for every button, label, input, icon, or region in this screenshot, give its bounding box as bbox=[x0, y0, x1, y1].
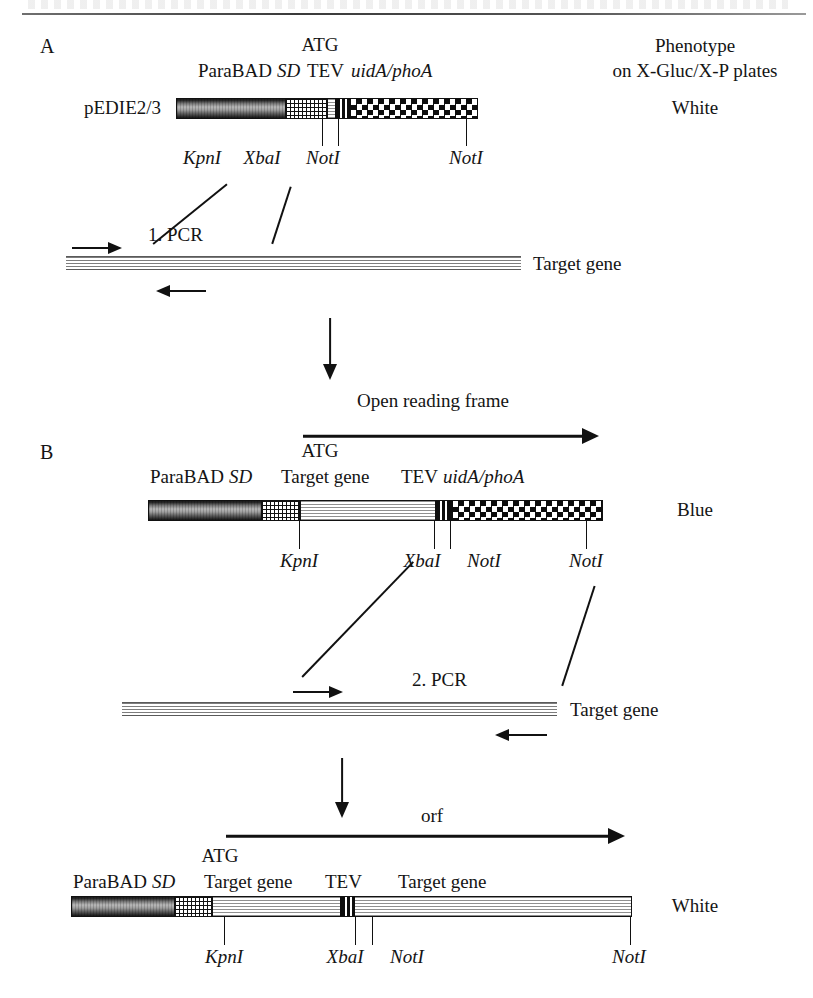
panel-a-promoter-arabad: araBAD bbox=[209, 60, 272, 81]
panel-b-sd-label: SD bbox=[229, 467, 252, 486]
panel-c-atg-label: ATG bbox=[202, 846, 239, 865]
site-label-xbai-c: XbaI bbox=[327, 947, 364, 966]
phenotype-value-c: White bbox=[672, 896, 718, 915]
segment-target-gene-1 bbox=[212, 897, 340, 916]
panel-c-promoter-label: ParaBAD bbox=[73, 872, 147, 891]
panel-a-tev-label: TEV bbox=[307, 61, 344, 80]
pcr1-forward-primer-arrow bbox=[72, 240, 122, 256]
segment-tev bbox=[435, 501, 452, 520]
pcr1-template-duplex bbox=[66, 256, 521, 270]
panel-a-atg-label: ATG bbox=[302, 35, 339, 54]
site-tick-noti-a bbox=[466, 119, 467, 146]
site-tick-noti-b bbox=[450, 521, 451, 549]
panel-c-promoter-arabad: araBAD bbox=[84, 871, 147, 892]
panel-b-label: B bbox=[40, 442, 53, 462]
header-text-remnant bbox=[28, 0, 788, 9]
segment-promoter bbox=[72, 897, 174, 916]
pcr1-reverse-primer-arrow bbox=[156, 283, 206, 299]
segment-target-gene bbox=[300, 501, 435, 520]
site-label-kpni-a: KpnI bbox=[183, 148, 221, 167]
panel-b-promoter-label: ParaBAD bbox=[150, 467, 224, 486]
panel-b-promoter-p: P bbox=[150, 466, 161, 487]
pcr2-forward-primer-arrow bbox=[293, 684, 343, 700]
orf-bottom-arrow bbox=[226, 828, 625, 844]
pcr2-template-duplex bbox=[122, 702, 557, 716]
site-label-noti-b-2: NotI bbox=[569, 551, 603, 570]
segment-promoter bbox=[177, 99, 285, 118]
site-label-xbai-b: XbaI bbox=[404, 551, 441, 570]
segment-promoter bbox=[149, 501, 261, 520]
panel-c-tev-label: TEV bbox=[325, 872, 362, 891]
site-tick-noti-c bbox=[372, 917, 373, 945]
segment-reporter bbox=[452, 501, 602, 520]
panel-b-target-label: Target gene bbox=[281, 467, 370, 486]
site-label-noti-b-1: NotI bbox=[467, 551, 501, 570]
panel-c-sd-label: SD bbox=[152, 872, 175, 891]
panel-b-reporter-label: uidA/phoA bbox=[443, 467, 524, 486]
figure-canvas: A ATG ParaBAD SD TEV uidA/phoA pEDIE2/3 … bbox=[0, 0, 813, 998]
panel-a-promoter-p: P bbox=[198, 60, 209, 81]
site-label-xbai-a: XbaI bbox=[244, 148, 281, 167]
segment-sd bbox=[261, 501, 300, 520]
panel-a-reporter-label: uidA/phoA bbox=[351, 61, 432, 80]
pcr1-label: 1. PCR bbox=[148, 225, 203, 244]
site-tick-kpni-a bbox=[322, 119, 323, 146]
construct-bar-panel-c bbox=[71, 896, 632, 917]
site-label-kpni-c: KpnI bbox=[205, 947, 243, 966]
segment-spacer bbox=[327, 99, 335, 118]
phenotype-value-b: Blue bbox=[677, 500, 713, 519]
segment-tev bbox=[340, 897, 355, 916]
panel-a-promoter-label: ParaBAD bbox=[198, 61, 272, 80]
construct-bar-panel-a bbox=[176, 98, 478, 119]
site-tick-xbai-c bbox=[355, 917, 356, 945]
segment-sd bbox=[285, 99, 327, 118]
leader-line-noti-b bbox=[561, 586, 595, 686]
site-tick-noti-b-2 bbox=[586, 521, 587, 549]
panel-b-atg-label: ATG bbox=[302, 441, 339, 460]
leader-line-xbai-a bbox=[271, 186, 291, 244]
pcr2-reverse-primer-arrow bbox=[495, 727, 547, 743]
site-label-noti-c-2: NotI bbox=[612, 947, 646, 966]
orf-top-label: Open reading frame bbox=[357, 391, 509, 410]
site-tick-kpni-c bbox=[224, 917, 225, 945]
panel-c-target2-label: Target gene bbox=[398, 872, 487, 891]
plasmid-name-label: pEDIE2/3 bbox=[84, 98, 161, 117]
site-tick-xbai-b bbox=[434, 521, 435, 549]
panel-c-target1-label: Target gene bbox=[204, 872, 293, 891]
site-label-noti-a-2: NotI bbox=[449, 148, 483, 167]
pcr2-label: 2. PCR bbox=[412, 670, 467, 689]
site-label-noti-a-1: NotI bbox=[306, 148, 340, 167]
segment-sd bbox=[174, 897, 212, 916]
segment-tev bbox=[335, 99, 350, 118]
phenotype-heading-line1: Phenotype bbox=[655, 36, 735, 55]
pcr1-template-label: Target gene bbox=[533, 254, 622, 273]
panel-b-promoter-arabad: araBAD bbox=[161, 466, 224, 487]
orf-top-arrow bbox=[303, 428, 599, 444]
phenotype-heading-line2: on X-Gluc/X-P plates bbox=[613, 61, 778, 80]
site-tick-kpni-b bbox=[299, 521, 300, 549]
orf-bottom-label: orf bbox=[421, 806, 443, 825]
site-tick-xbai-a bbox=[338, 119, 339, 146]
panel-c-promoter-p: P bbox=[73, 871, 84, 892]
panel-b-tev-label: TEV bbox=[401, 467, 438, 486]
phenotype-value-a: White bbox=[672, 98, 718, 117]
leader-line-kpni-b bbox=[301, 561, 413, 677]
site-label-kpni-b: KpnI bbox=[280, 551, 318, 570]
header-rule bbox=[22, 13, 806, 15]
site-label-noti-c-1: NotI bbox=[390, 947, 424, 966]
segment-target-gene-2 bbox=[355, 897, 631, 916]
segment-reporter bbox=[350, 99, 477, 118]
panel-a-sd-label: SD bbox=[277, 61, 300, 80]
site-tick-noti-c-2 bbox=[630, 917, 631, 945]
panel-a-label: A bbox=[40, 36, 54, 56]
construct-bar-panel-b bbox=[148, 500, 603, 521]
pcr2-template-label: Target gene bbox=[570, 700, 659, 719]
